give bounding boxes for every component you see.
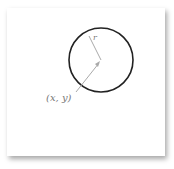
arrowhead-icon [95, 61, 100, 67]
center-pointer-arrow [76, 63, 99, 92]
circle-diagram [0, 0, 174, 169]
radius-label: r [93, 33, 97, 42]
center-label: (x, y) [46, 92, 71, 103]
